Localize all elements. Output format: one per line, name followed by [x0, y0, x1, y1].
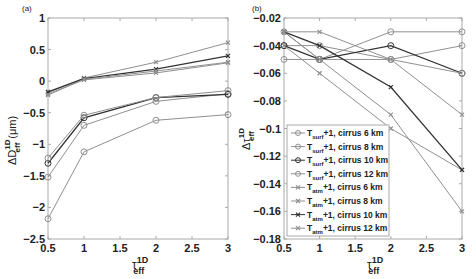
y-tick-label: −0.02 [253, 12, 281, 24]
x-tick-label: 2.5 [184, 242, 199, 254]
y-axis-label: ΔD1Deff(μm) [3, 116, 22, 165]
x-tick-label: 3 [225, 242, 231, 254]
panel-label: (a) [22, 4, 32, 13]
x-tick-label: 1 [81, 242, 87, 254]
x-tick-label: 2 [153, 242, 159, 254]
x-axis-label: τ1Deff [132, 255, 149, 276]
x-tick-label: 2.5 [419, 242, 434, 254]
series-line [282, 30, 464, 117]
y-tick-label: −0.1 [259, 123, 281, 135]
x-marker-icon [389, 113, 393, 117]
panel-a-chart: 0.511.522.53−2.5−2−1.5−1−0.500.51(a)τ1De… [3, 4, 231, 276]
x-tick-label: 3 [459, 242, 465, 254]
panel-label: (b) [252, 4, 262, 13]
panel-b-chart: 0.511.522.53−0.18−0.16−0.14−0.12−0.1−0.0… [237, 4, 465, 276]
y-tick-label: −0.18 [253, 233, 281, 245]
series-line [46, 54, 230, 94]
y-tick-label: 0.5 [30, 44, 45, 56]
y-tick-label: −2.5 [23, 233, 45, 245]
x-axis-label: τ1Deff [367, 255, 384, 276]
y-tick-label: −0.5 [23, 107, 45, 119]
y-tick-label: −0.06 [253, 67, 281, 79]
series-line [45, 91, 231, 180]
y-tick-label: −1 [32, 138, 45, 150]
series-line [45, 88, 231, 162]
y-tick-label: −0.08 [253, 95, 281, 107]
y-tick-label: −0.12 [253, 150, 281, 162]
x-tick-label: 1.5 [348, 242, 363, 254]
y-tick-label: −0.14 [253, 178, 282, 190]
y-tick-label: 0 [39, 75, 45, 87]
y-tick-label: −0.04 [253, 40, 282, 52]
series-line [46, 41, 230, 95]
y-axis-label: Δτ1Deff [237, 128, 256, 150]
legend: Tsurf+1, cirrus 6 kmTsurf+1, cirrus 8 km… [287, 125, 389, 236]
y-tick-label: −2 [32, 201, 45, 213]
x-marker-icon [389, 85, 393, 89]
x-tick-label: 1.5 [112, 242, 127, 254]
figure: 0.511.522.53−2.5−2−1.5−1−0.500.51(a)τ1De… [0, 0, 476, 279]
x-marker-icon [318, 71, 322, 75]
y-tick-label: 1 [39, 12, 45, 24]
y-tick-label: −0.16 [253, 205, 281, 217]
y-tick-label: −1.5 [23, 170, 45, 182]
x-tick-label: 1 [317, 242, 323, 254]
x-tick-label: 2 [388, 242, 394, 254]
